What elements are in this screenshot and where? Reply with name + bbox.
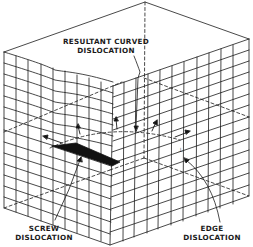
leader-lines <box>55 56 220 222</box>
label-line: DISLOCATION <box>4 234 84 243</box>
resultant-curved-dislocation-label: RESULTANT CURVED DISLOCATION <box>56 38 156 55</box>
resultant-leader <box>134 56 140 128</box>
edge-dislocation-symbol: ⊥ <box>178 146 183 153</box>
screw-dislocation-step <box>52 143 120 166</box>
label-line: DISLOCATION <box>56 47 156 56</box>
dislocation-diagram: ⊥ RESULTANT CURVED DISLOCATION SCREW DIS… <box>0 0 253 247</box>
screw-leader <box>55 160 80 220</box>
edge-dislocation-label: EDGE DISLOCATION <box>172 225 252 242</box>
screw-dislocation-label: SCREW DISLOCATION <box>4 225 84 242</box>
label-line: DISLOCATION <box>172 234 252 243</box>
